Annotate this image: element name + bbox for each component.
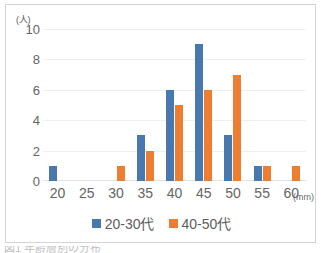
legend-item-label: 20-30代 <box>105 213 155 233</box>
bar[interactable] <box>204 90 212 181</box>
legend-item-40-50[interactable]: 40-50代 <box>169 213 232 233</box>
bar-group <box>248 29 277 181</box>
bar[interactable] <box>137 135 145 181</box>
y-tick-label: 6 <box>18 82 40 97</box>
bar[interactable] <box>254 166 262 181</box>
x-axis-unit-label: (mm) <box>293 192 314 202</box>
x-tick-label: 20 <box>43 185 72 205</box>
bar[interactable] <box>117 166 125 181</box>
bar[interactable] <box>224 135 232 181</box>
legend-swatch-icon <box>92 219 101 228</box>
x-tick-label: 40 <box>160 185 189 205</box>
bar-group <box>43 29 72 181</box>
bar-group <box>160 29 189 181</box>
x-tick-label: 45 <box>189 185 218 205</box>
bar-group <box>218 29 247 181</box>
x-axis-tick-labels: 20 25 30 35 40 45 50 55 60 <box>43 185 306 205</box>
x-tick-label: 30 <box>101 185 130 205</box>
x-tick-label: 50 <box>218 185 247 205</box>
y-tick-label: 8 <box>18 52 40 67</box>
chart-frame: (人) 10 8 6 4 2 0 20 25 30 35 40 45 50 5 <box>5 4 316 243</box>
chart-legend: 20-30代 40-50代 <box>6 213 317 233</box>
bar[interactable] <box>195 44 203 181</box>
y-tick-label: 10 <box>18 22 40 37</box>
bar-group <box>189 29 218 181</box>
bar[interactable] <box>292 166 300 181</box>
y-tick-label: 2 <box>18 143 40 158</box>
legend-item-20-30[interactable]: 20-30代 <box>92 213 155 233</box>
cut-off-caption-text: 図1 年齢層別の分布 <box>4 246 319 253</box>
chart-screenshot: (人) 10 8 6 4 2 0 20 25 30 35 40 45 50 5 <box>0 0 323 253</box>
legend-item-label: 40-50代 <box>182 213 232 233</box>
bar[interactable] <box>233 75 241 181</box>
y-tick-label: 0 <box>18 174 40 189</box>
bar[interactable] <box>263 166 271 181</box>
bar-group <box>131 29 160 181</box>
cut-off-caption: 図1 年齢層別の分布 <box>4 246 319 253</box>
bar-group <box>72 29 101 181</box>
y-tick-label: 4 <box>18 113 40 128</box>
bar[interactable] <box>175 105 183 181</box>
bar-groups <box>43 29 306 181</box>
bar-group <box>277 29 306 181</box>
bar[interactable] <box>166 90 174 181</box>
bar[interactable] <box>146 151 154 181</box>
x-tick-label: 35 <box>131 185 160 205</box>
x-tick-label: 55 <box>248 185 277 205</box>
y-axis-tick-labels: 10 8 6 4 2 0 <box>14 29 40 181</box>
bar[interactable] <box>49 166 57 181</box>
plot-area <box>43 29 306 181</box>
legend-swatch-icon <box>169 219 178 228</box>
bar-group <box>101 29 130 181</box>
x-tick-label: 25 <box>72 185 101 205</box>
